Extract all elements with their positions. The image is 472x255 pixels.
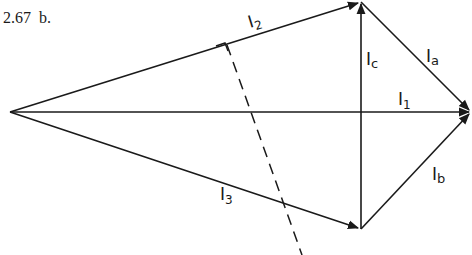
figure-number: 2.67b.: [3, 9, 51, 26]
dashed-perpendicular: [227, 45, 302, 255]
label-ib: Ib: [432, 164, 445, 186]
phasor-diagram: 2.67b. I2 Ic Ia I1 Ib I3: [0, 0, 472, 255]
vector-i3: [10, 112, 358, 228]
label-i1: I1: [398, 89, 411, 112]
vector-i2: [10, 3, 358, 112]
vector-ib: [361, 114, 469, 229]
label-ic: Ic: [366, 49, 378, 71]
label-i2: I2: [245, 9, 264, 35]
label-i3: I3: [220, 184, 233, 207]
label-ia: Ia: [426, 46, 439, 68]
